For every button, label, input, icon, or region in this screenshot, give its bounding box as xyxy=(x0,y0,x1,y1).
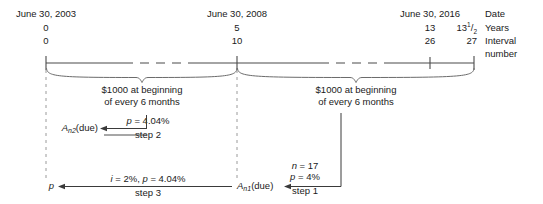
timeline-diagram: June 30, 2003 0 0 June 30, 2008 5 10 Jun… xyxy=(0,0,543,204)
diagram-vector-layer xyxy=(0,0,543,204)
step-1-arrow xyxy=(284,113,341,189)
step-3-arrow xyxy=(58,184,232,189)
step-1-arrowhead xyxy=(284,184,291,189)
step-3-arrowhead xyxy=(58,184,65,189)
step-2-arrow xyxy=(100,115,147,135)
step-2-arrowhead xyxy=(100,126,107,131)
brace-left xyxy=(47,68,238,83)
brace-right xyxy=(238,68,475,83)
